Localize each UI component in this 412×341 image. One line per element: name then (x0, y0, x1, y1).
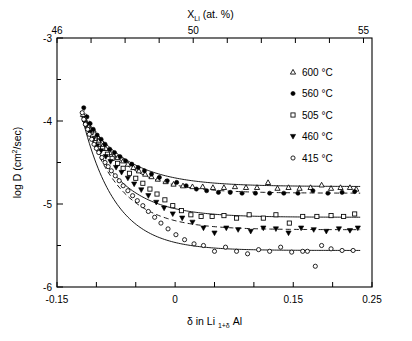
data-point (296, 191, 300, 195)
data-point (245, 252, 249, 256)
top-x-tick-label: 50 (188, 25, 200, 36)
data-point (108, 147, 112, 151)
data-point (353, 212, 357, 216)
data-point (192, 242, 196, 246)
data-point (139, 188, 144, 193)
data-point (268, 191, 272, 195)
x-tick-label: 0.15 (284, 294, 304, 305)
legend-marker (291, 91, 295, 95)
data-point (157, 175, 161, 179)
data-point (234, 249, 238, 253)
data-point (141, 204, 145, 208)
y-tick-label: -4 (43, 116, 52, 127)
data-point (87, 132, 91, 136)
data-point (299, 226, 304, 231)
data-point (80, 111, 84, 115)
data-point (222, 214, 226, 218)
data-point (274, 213, 278, 217)
diffusion-scatter-chart: -0.1500.150.25465055-6-5-4-3XLi (at. %)δ… (0, 0, 412, 341)
data-point (121, 166, 125, 170)
data-point (228, 190, 232, 194)
data-point (205, 189, 209, 193)
data-point (286, 231, 291, 236)
data-point (86, 127, 90, 131)
data-point (155, 192, 159, 196)
data-point (116, 161, 120, 165)
data-point (216, 190, 220, 194)
data-point (82, 117, 86, 121)
data-point (201, 226, 206, 231)
data-point (174, 233, 178, 237)
data-point (141, 181, 145, 185)
data-point (149, 172, 153, 176)
data-point (194, 187, 198, 191)
data-point (199, 214, 203, 218)
data-point (200, 184, 205, 189)
data-point (265, 180, 270, 185)
y-tick-label: -3 (43, 33, 52, 44)
data-point (261, 226, 266, 231)
data-point (290, 250, 294, 254)
data-point (153, 215, 157, 219)
data-point (146, 209, 150, 213)
data-point (212, 231, 217, 236)
legend-label: 560 °C (302, 88, 333, 99)
data-point (99, 137, 103, 141)
data-point (90, 137, 94, 141)
legend-label: 460 °C (302, 131, 333, 142)
data-point (224, 226, 229, 231)
x-tick-label: -0.15 (46, 294, 69, 305)
data-point (184, 184, 188, 188)
data-point (165, 179, 169, 183)
data-point (127, 171, 131, 175)
figure-container: -0.1500.150.25465055-6-5-4-3XLi (at. %)δ… (0, 0, 412, 341)
data-point (121, 184, 125, 188)
data-point (117, 179, 121, 183)
data-point (353, 189, 357, 193)
data-point (134, 176, 138, 180)
data-point (248, 229, 253, 234)
data-point (148, 187, 152, 191)
data-point (97, 150, 101, 154)
data-point (131, 194, 135, 198)
data-point (351, 248, 355, 252)
data-point (319, 182, 324, 187)
data-point (108, 160, 113, 165)
data-point (301, 249, 305, 253)
legend-label: 505 °C (302, 110, 333, 121)
data-point (189, 213, 193, 217)
data-point (326, 191, 330, 195)
data-point (201, 243, 205, 247)
data-point (210, 214, 214, 218)
data-point (282, 191, 286, 195)
data-point (94, 146, 98, 150)
data-point (338, 185, 343, 190)
data-point (223, 245, 227, 249)
data-point (329, 247, 333, 251)
data-point (247, 213, 251, 217)
data-point (171, 204, 175, 208)
data-point (240, 191, 244, 195)
data-point (170, 212, 175, 217)
bottom-axis-title: δ in Li 1+δ Al (187, 315, 242, 329)
data-point (275, 186, 280, 191)
data-point (119, 170, 124, 175)
data-point (146, 194, 151, 199)
data-point (311, 189, 315, 193)
data-point (234, 216, 238, 220)
x-tick-label: 0 (172, 294, 178, 305)
data-point (135, 199, 139, 203)
data-point (126, 189, 130, 193)
data-point (221, 185, 226, 190)
data-point (166, 227, 170, 231)
data-point (336, 227, 341, 232)
data-point (130, 162, 134, 166)
data-point (109, 169, 113, 173)
data-point (268, 249, 272, 253)
data-point (142, 169, 146, 173)
data-point (100, 155, 104, 159)
data-point (190, 184, 195, 189)
data-point (175, 180, 179, 184)
data-point (340, 190, 344, 194)
data-point (163, 198, 167, 202)
